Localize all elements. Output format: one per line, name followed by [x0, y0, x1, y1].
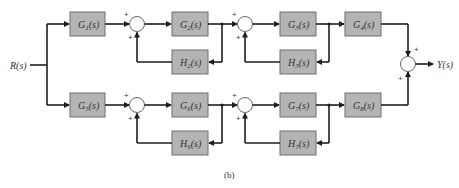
- svg-text:+: +: [236, 33, 241, 42]
- summing-junction-4: [238, 98, 253, 113]
- input-label: R(s): [9, 60, 27, 72]
- svg-text:+: +: [128, 114, 133, 123]
- svg-text:+: +: [128, 33, 133, 42]
- figure-caption: (b): [224, 170, 235, 180]
- summing-junction-3: [130, 98, 145, 113]
- svg-text:+: +: [414, 45, 419, 54]
- svg-text:+: +: [398, 74, 403, 83]
- svg-text:+: +: [232, 10, 237, 19]
- block-diagram: R(s) G1(s) + + G2(s) H2(s) + + G3(s) H3(…: [0, 0, 459, 188]
- svg-text:+: +: [124, 91, 129, 100]
- bottom-path: G5(s) + + G6(s) H6(s) + + G7(s) H7(s) G8…: [70, 72, 408, 155]
- svg-text:+: +: [124, 10, 129, 19]
- top-path: G1(s) + + G2(s) H2(s) + + G3(s) H3(s) G4…: [70, 10, 408, 74]
- summing-junction-2: [238, 17, 253, 32]
- svg-text:+: +: [236, 114, 241, 123]
- output-summing-junction: [401, 57, 416, 72]
- svg-text:+: +: [232, 91, 237, 100]
- output-label: Y(s): [437, 59, 454, 71]
- summing-junction-1: [130, 17, 145, 32]
